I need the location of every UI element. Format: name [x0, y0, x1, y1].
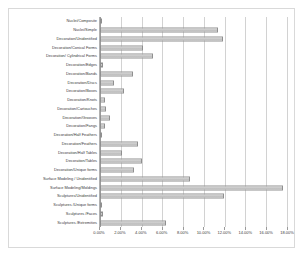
bar [100, 194, 224, 199]
bar [100, 98, 105, 103]
x-tick-label: 12.00% [218, 231, 232, 235]
bar [100, 203, 102, 208]
bar [100, 89, 124, 94]
x-tick-label: 2.00% [114, 231, 125, 235]
x-tick-label: 0.00% [93, 231, 104, 235]
bar [100, 36, 223, 41]
bar [100, 80, 114, 85]
x-axis: 0.00%2.00%4.00%6.00%8.00%10.00%12.00%14.… [99, 227, 287, 243]
category-label: Decoration/Boxes [66, 89, 97, 93]
bar-row: Decoration/Half Feathers [100, 131, 287, 140]
plot-area: Nuclei/CompositeNuclei/SimpleDecoration/… [99, 17, 287, 227]
category-label: Decoration/Half Tables [58, 151, 97, 155]
category-label: Decoration/Discs [68, 81, 97, 85]
bar-row: Decoration/Conical Forms [100, 43, 287, 52]
category-label: Sculptures/Unidentified [57, 194, 97, 198]
x-tick-label: 4.00% [135, 231, 146, 235]
category-label: Sculptures /Unique forms [53, 203, 97, 207]
bar-row: Surface Modeling/Moldings [100, 183, 287, 192]
bar-row: Decoration/Boxes [100, 87, 287, 96]
bar-row: Nuclei/Composite [100, 17, 287, 26]
bar-row: Sculptures /Faces [100, 210, 287, 219]
x-tick-label: 16.00% [259, 231, 273, 235]
bar [100, 159, 142, 164]
bar [100, 133, 102, 138]
bar [100, 71, 133, 76]
bar [100, 176, 190, 181]
bar-row: Decoration/Edges [100, 61, 287, 70]
bar-row: Decoration/Unidentified [100, 34, 287, 43]
bar [100, 63, 103, 68]
bar [100, 168, 134, 173]
bar-row: Surface Modeling / Unidentified [100, 175, 287, 184]
category-label: Sculptures /Extremities [57, 221, 97, 225]
bar [100, 141, 138, 146]
bar-row: Decoration/Knots [100, 96, 287, 105]
bar-row: Decoration/Tables [100, 157, 287, 166]
x-tick-label: 10.00% [197, 231, 211, 235]
bar-row: Sculptures/Unidentified [100, 192, 287, 201]
bar [100, 185, 283, 190]
bar-row: Decoration/Feathers [100, 140, 287, 149]
x-tick-label: 14.00% [238, 231, 252, 235]
category-label: Decoration/Unidentified [57, 37, 97, 41]
bar [100, 115, 110, 120]
category-label: Decoration/Grooves [62, 116, 97, 120]
bar-row: Decoration/Fangs [100, 122, 287, 131]
bar-row: Decoration/Grooves [100, 113, 287, 122]
bar-rows: Nuclei/CompositeNuclei/SimpleDecoration/… [100, 17, 287, 227]
bar-row: Nuclei/Simple [100, 26, 287, 35]
bar [100, 19, 102, 24]
bar [100, 124, 105, 129]
bar-row: Decoration/ Cylindrical Forms [100, 52, 287, 61]
category-label: Decoration/ Cylindrical Forms [46, 54, 97, 58]
category-label: Nuclei/Simple [73, 28, 97, 32]
bar-row: Sculptures /Unique forms [100, 201, 287, 210]
category-label: Decoration/Edges [66, 63, 97, 67]
category-label: Nuclei/Composite [67, 19, 98, 23]
category-label: Decoration/Conical Forms [52, 46, 97, 50]
bar [100, 211, 103, 216]
chart-frame: Nuclei/CompositeNuclei/SimpleDecoration/… [8, 8, 295, 248]
bar [100, 28, 218, 33]
bar-row: Decoration/Half Tables [100, 148, 287, 157]
category-label: Sculptures /Faces [66, 212, 97, 216]
category-label: Decoration/Fangs [66, 124, 97, 128]
bar-row: Decoration/Unique forms [100, 166, 287, 175]
bar-row: Sculptures /Extremities [100, 218, 287, 227]
bar [100, 150, 122, 155]
bar [100, 45, 143, 50]
bar-row: Decoration/Cartouches [100, 105, 287, 114]
category-label: Decoration/Feathers [62, 142, 97, 146]
bar [100, 220, 166, 225]
category-label: Decoration/Unique forms [54, 168, 97, 172]
category-label: Decoration/Bands [66, 72, 97, 76]
category-label: Decoration/Half Feathers [54, 133, 97, 137]
category-label: Surface Modeling/Moldings [50, 186, 97, 190]
bar [100, 54, 153, 59]
x-tick-label: 8.00% [177, 231, 188, 235]
gridline [287, 17, 288, 227]
bar-row: Decoration/Bands [100, 70, 287, 79]
bar [100, 106, 106, 111]
category-label: Decoration/Knots [67, 98, 97, 102]
bar-row: Decoration/Discs [100, 78, 287, 87]
category-label: Decoration/Cartouches [57, 107, 97, 111]
category-label: Decoration/Tables [66, 159, 97, 163]
x-tick-label: 6.00% [156, 231, 167, 235]
x-tick-label: 18.00% [280, 231, 294, 235]
category-label: Surface Modeling / Unidentified [43, 177, 97, 181]
